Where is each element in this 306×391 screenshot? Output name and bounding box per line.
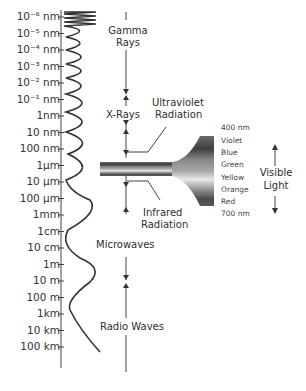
gamma-label: Gamma — [108, 26, 148, 36]
color-yellow: Yellow — [221, 174, 244, 182]
color-red: Red — [221, 198, 235, 206]
tick-label: 1mm — [33, 209, 60, 220]
color-violet: Violet — [221, 137, 242, 145]
tick-label: 100 nm — [20, 143, 60, 154]
visible-band — [100, 162, 172, 176]
visible-fan — [172, 136, 214, 206]
visible-700nm: 700 nm — [221, 210, 250, 218]
ir-pointer — [127, 181, 160, 200]
ir-label-1: Infrared — [143, 208, 182, 218]
color-green: Green — [221, 161, 244, 169]
color-orange: Orange — [221, 186, 249, 194]
color-blue: Blue — [221, 149, 238, 157]
tick-label: 10 nm — [26, 127, 60, 138]
tick-label: 1cm — [37, 226, 60, 237]
tick-label: 10⁻¹ nm — [17, 94, 60, 105]
tick-label: 10⁻³ nm — [17, 61, 60, 72]
tick-label: 100 m — [26, 292, 60, 303]
tick-label: 10 km — [27, 325, 60, 336]
uv-label-1: Ultraviolet — [152, 98, 204, 108]
ir-label-2: Radiation — [141, 220, 188, 230]
microwaves-label: Microwaves — [96, 240, 155, 250]
visible-400nm: 400 nm — [221, 124, 250, 132]
tick-label: 10⁻⁵ nm — [17, 28, 60, 39]
radio-waves-label: Radio Waves — [100, 322, 164, 332]
tick-label: 10⁻⁶ nm — [17, 11, 60, 22]
tick-label: 1µm — [36, 160, 60, 171]
tick-label: 100 km — [20, 341, 60, 352]
tick-label: 1m — [43, 259, 60, 270]
tick-label: 1km — [37, 308, 60, 319]
tick-label: 10⁻⁴ nm — [17, 44, 60, 55]
wave-curve — [64, 12, 100, 352]
tick-label: 10 cm — [27, 242, 60, 253]
uv-pointer — [127, 127, 166, 152]
visible-label: Visible — [256, 168, 296, 178]
tick-label: 1nm — [36, 110, 60, 121]
tick-label: 10 µm — [26, 176, 60, 187]
uv-label-2: Radiation — [155, 110, 202, 120]
xrays-label: X-Rays — [106, 110, 140, 120]
gamma-rays-label: Rays — [108, 38, 148, 48]
tick-label: 10 m — [33, 275, 60, 286]
tick-label: 100 µm — [20, 193, 60, 204]
tick-label: 10⁻² nm — [17, 77, 60, 88]
light-label: Light — [256, 181, 296, 191]
